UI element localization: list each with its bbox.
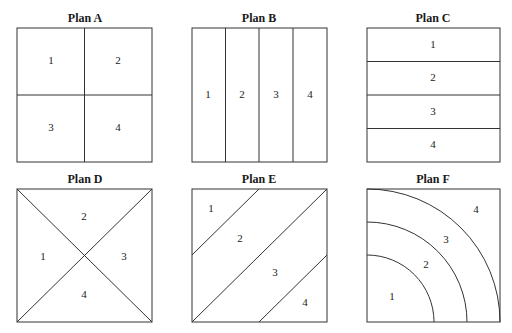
plan-f-region-4: 4 (473, 203, 479, 215)
plan-c-title: Plan C (415, 11, 450, 25)
plan-e-region-4: 4 (302, 296, 308, 308)
plan-a-title: Plan A (68, 11, 103, 25)
plan-a: Plan A 1 2 3 4 (17, 11, 152, 162)
plan-f-region-1: 1 (389, 290, 395, 302)
plan-e: Plan E 1 2 3 4 (192, 172, 327, 322)
plan-f-arc-2 (367, 222, 467, 322)
plan-f-frame (367, 189, 500, 322)
plan-a-region-2: 2 (115, 54, 121, 66)
plan-b-region-2: 2 (239, 88, 245, 100)
plan-c-region-2: 2 (430, 71, 436, 83)
plan-b-region-3: 3 (273, 88, 279, 100)
plan-d: Plan D 2 1 3 4 (17, 172, 152, 322)
plan-c-region-3: 3 (430, 105, 436, 117)
plan-f-title: Plan F (416, 172, 450, 186)
plan-b-region-1: 1 (205, 88, 211, 100)
plan-e-region-1: 1 (208, 202, 214, 214)
plan-c: Plan C 1 2 3 4 (367, 11, 500, 162)
plans-diagram: Plan A 1 2 3 4 Plan B 1 2 3 4 Plan C 1 2… (0, 0, 512, 333)
plan-a-region-4: 4 (115, 121, 121, 133)
plan-f: Plan F 1 2 3 4 (367, 172, 500, 322)
plan-e-diagonal-3 (259, 255, 327, 322)
plan-a-region-1: 1 (48, 54, 54, 66)
plan-d-region-3: 3 (121, 250, 127, 262)
plan-d-region-4: 4 (81, 288, 87, 300)
plan-e-diagonal-1 (192, 189, 259, 255)
plan-c-region-4: 4 (430, 138, 436, 150)
plan-f-arc-3 (367, 189, 500, 322)
plan-e-region-2: 2 (237, 232, 243, 244)
plan-b-title: Plan B (242, 11, 276, 25)
plan-f-region-3: 3 (443, 233, 449, 245)
plan-d-title: Plan D (67, 172, 102, 186)
plan-d-region-2: 2 (81, 210, 87, 222)
plan-e-region-3: 3 (272, 266, 278, 278)
plan-b: Plan B 1 2 3 4 (192, 11, 327, 162)
plan-b-region-4: 4 (307, 88, 313, 100)
plan-e-title: Plan E (242, 172, 276, 186)
plan-a-region-3: 3 (48, 121, 54, 133)
plan-c-region-1: 1 (430, 38, 436, 50)
plan-f-region-2: 2 (423, 258, 429, 270)
plan-d-region-1: 1 (40, 250, 46, 262)
